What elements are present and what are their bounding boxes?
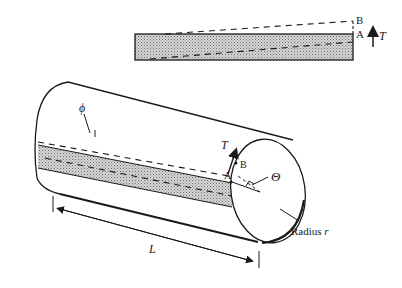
cylinder-top-outline — [37, 82, 293, 140]
twist-angle-label: ϕ — [79, 101, 85, 115]
shaded-strip — [135, 34, 353, 60]
torsion-diagram: B A T T A B — [0, 0, 402, 288]
inset-torque-label: T — [379, 29, 387, 43]
cylinder-shaft: T A B Θ ϕ Radius r — [35, 82, 329, 248]
cylinder-torque-label: T — [221, 138, 229, 152]
inset-point-b-label: B — [356, 14, 363, 26]
radius-label: Radius r — [291, 225, 329, 237]
point-b-dot — [235, 162, 238, 165]
dashed-line-to-b — [165, 21, 353, 34]
inset-point-a-label: A — [356, 28, 364, 40]
length-dimension: L — [53, 196, 259, 268]
cylinder-point-a-label: A — [224, 170, 232, 181]
unrolled-strip-inset: B A T — [135, 14, 387, 60]
phi-leader-line — [84, 114, 90, 133]
cylinder-point-b-label: B — [240, 159, 247, 170]
length-label: L — [148, 242, 156, 256]
rotation-angle-label: Θ — [271, 169, 281, 184]
